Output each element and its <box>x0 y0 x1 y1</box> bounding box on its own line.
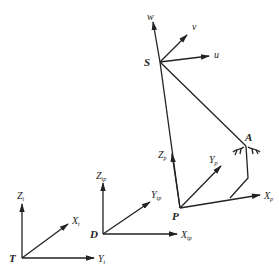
v-label: v <box>192 21 197 32</box>
point-d-label: D <box>89 228 98 240</box>
ytp-label: Ytp <box>151 189 161 201</box>
point-a-label: A <box>244 131 252 143</box>
w-label: w <box>147 11 154 22</box>
point-t-label: T <box>9 252 17 264</box>
zp-axis <box>172 154 180 208</box>
point-s-label: S <box>144 56 150 68</box>
zt-label: Zt <box>17 190 25 202</box>
zp-label: Zp <box>158 149 167 161</box>
frame-s: w v u S <box>144 11 219 68</box>
frame-p: Zp Yp Xp P <box>158 149 273 222</box>
ytp-axis <box>103 202 150 234</box>
yp-label: Yp <box>209 154 218 166</box>
xp-label: Xp <box>263 190 273 202</box>
u-axis <box>160 56 209 62</box>
yt-label: Yt <box>98 253 106 265</box>
v-axis <box>160 35 187 62</box>
w-axis <box>153 22 160 62</box>
xp-axis <box>180 195 260 208</box>
point-p-label: P <box>172 210 179 222</box>
xt-label: Xt <box>71 215 80 227</box>
xt-axis <box>22 224 68 258</box>
u-label: u <box>214 49 219 60</box>
kinematic-diagram: w v u S A Zp Yp Xp P Ztp Ytp Xtp D <box>0 0 279 279</box>
mechanism-links <box>160 62 248 208</box>
xtp-label: Xtp <box>180 229 192 241</box>
link-s-to-a <box>160 62 246 146</box>
link-a-bracket <box>230 146 248 198</box>
ztp-label: Ztp <box>96 170 106 182</box>
